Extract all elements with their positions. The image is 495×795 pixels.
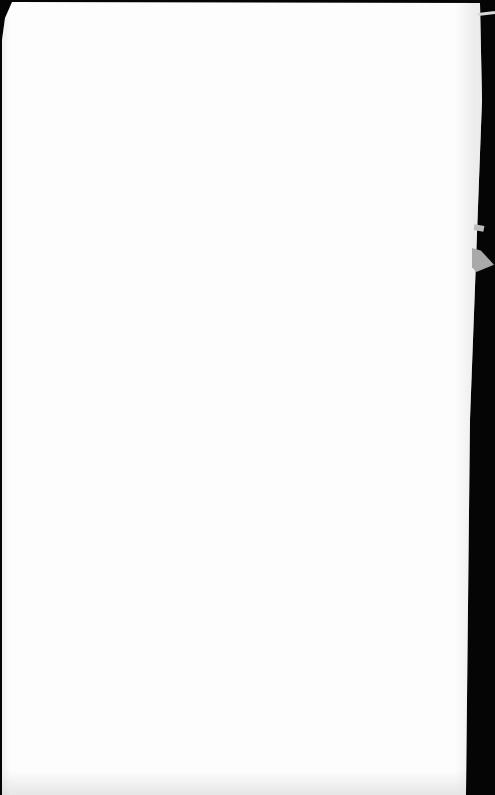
blank-paper-sheet bbox=[0, 0, 495, 795]
paper-fold-flap bbox=[472, 248, 494, 272]
photo-scene bbox=[0, 0, 495, 795]
paper-bottom-shadow bbox=[2, 770, 466, 795]
paper-corner-scrap bbox=[478, 11, 495, 16]
